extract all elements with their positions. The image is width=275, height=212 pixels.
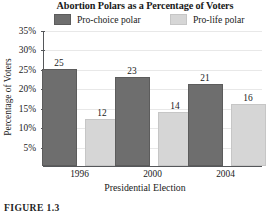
legend-label-pro-life: Pro-life polar [193, 14, 244, 25]
bar-value-label: 16 [243, 93, 252, 103]
y-axis-tick-label: 5% [24, 143, 37, 153]
bar-value-label: 25 [54, 58, 63, 68]
x-axis-tick-label: 2000 [143, 169, 162, 180]
legend-label-pro-choice: Pro-choice polar [77, 14, 141, 25]
bar-value-label: 12 [97, 108, 106, 118]
legend-item-pro-choice: Pro-choice polar [54, 13, 141, 26]
figure-caption: FIGURE 1.3 [4, 202, 60, 212]
bar: 21 [188, 84, 223, 166]
x-axis-tick-label: 2004 [216, 169, 235, 180]
y-axis-tick-label: 35% [19, 26, 36, 36]
bar-value-label: 23 [127, 66, 136, 76]
x-axis-tick-labels: 199620002004 [43, 169, 262, 181]
chart-legend: Pro-choice polar Pro-life polar [54, 13, 269, 26]
y-axis-tick-label: 20% [19, 84, 36, 94]
bar: 23 [115, 77, 150, 166]
x-axis-title: Presidential Election [20, 182, 270, 193]
y-axis-tick-label: 25% [19, 65, 36, 75]
figure-container: Abortion Polars as a Percentage of Voter… [0, 0, 275, 212]
bar-value-label: 21 [200, 73, 209, 83]
y-axis-title: Percentage of Voters [3, 32, 13, 162]
plot-area: 251223142116 [43, 31, 262, 167]
legend-swatch-pro-life [170, 14, 187, 25]
y-axis-tick-label: 15% [19, 104, 36, 114]
bar: 25 [42, 69, 77, 166]
bar: 16 [231, 104, 266, 166]
y-axis-tick-label: 10% [19, 123, 36, 133]
y-axis-tick-label: 30% [19, 45, 36, 55]
legend-item-pro-life: Pro-life polar [170, 13, 244, 26]
chart-title: Abortion Polars as a Percentage of Voter… [20, 0, 270, 12]
x-axis-tick-label: 1996 [70, 169, 89, 180]
bar-series-group: 251223142116 [44, 31, 262, 166]
legend-swatch-pro-choice [54, 14, 71, 25]
bar-value-label: 14 [170, 101, 179, 111]
